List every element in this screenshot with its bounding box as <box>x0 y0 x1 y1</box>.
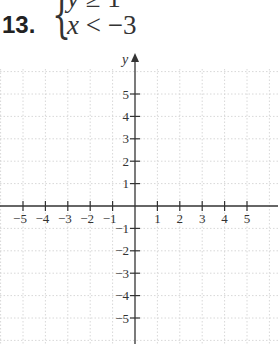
x-tick-label: −2 <box>80 211 94 226</box>
y-tick-label: −3 <box>115 266 129 281</box>
y-tick-label: −4 <box>115 288 129 303</box>
coordinate-grid: y−5−4−3−2−11234554321−1−2−3−4−5 <box>0 0 278 349</box>
x-tick-label: 1 <box>154 211 161 226</box>
y-axis-arrow-icon <box>131 53 139 62</box>
y-tick-label: 4 <box>123 109 130 124</box>
x-tick-label: 3 <box>199 211 206 226</box>
y-tick-label: −2 <box>115 243 129 258</box>
x-tick-label: 2 <box>177 211 184 226</box>
x-tick-label: −3 <box>58 211 72 226</box>
y-tick-label: 3 <box>123 131 130 146</box>
y-axis-label: y <box>120 52 129 67</box>
x-tick-label: 5 <box>244 211 251 226</box>
y-tick-label: 5 <box>123 87 130 102</box>
y-tick-label: −1 <box>115 221 129 236</box>
x-tick-label: −4 <box>35 211 49 226</box>
x-tick-label: −5 <box>13 211 27 226</box>
y-tick-label: 1 <box>123 176 130 191</box>
y-tick-label: −5 <box>115 311 129 326</box>
x-tick-label: 4 <box>221 211 228 226</box>
y-tick-label: 2 <box>123 154 130 169</box>
